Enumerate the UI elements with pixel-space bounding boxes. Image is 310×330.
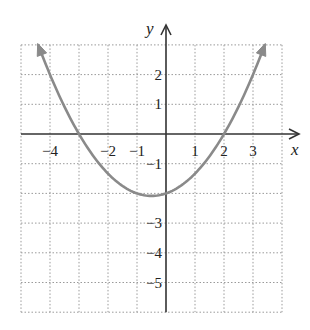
x-tick-label: 3 — [249, 143, 257, 159]
y-axis-label: y — [144, 19, 154, 38]
y-tick-label: −1 — [146, 156, 162, 172]
y-tick-label: 1 — [155, 96, 163, 112]
parabola-path — [38, 45, 264, 196]
x-tick-label: −2 — [100, 143, 116, 159]
curve-arrow-icon — [256, 43, 265, 56]
x-tick-label: −4 — [42, 143, 58, 159]
curve-arrow-icon — [37, 43, 46, 56]
y-tick-label: −3 — [146, 215, 162, 231]
y-tick-label: −5 — [146, 275, 162, 291]
x-tick-label: 1 — [191, 143, 199, 159]
parabola-curve — [37, 43, 266, 195]
x-tick-label: 2 — [220, 143, 228, 159]
x-tick-label: −1 — [129, 143, 145, 159]
y-tick-label: −4 — [146, 245, 162, 261]
x-axis-label: x — [290, 140, 299, 159]
parabola-chart: −4−2−112321−1−3−4−5 x y — [0, 0, 310, 330]
tick-labels: −4−2−112321−1−3−4−5 — [42, 67, 257, 291]
y-tick-label: 2 — [155, 67, 163, 83]
grid — [21, 45, 282, 312]
